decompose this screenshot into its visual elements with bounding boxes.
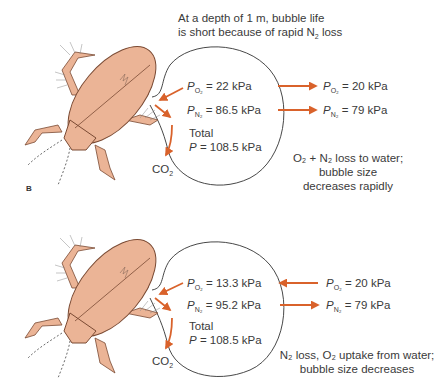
panel-note: O₂ + N₂ loss to water; bubble size decre…: [283, 151, 413, 193]
water-pn2: PN₂ = 79 kPa: [326, 298, 390, 317]
co2-label: CO2: [152, 162, 173, 181]
panel-note: N₂ loss, O₂ uptake from water; bubble si…: [276, 348, 438, 376]
o2-into-beetle-arrow: [160, 283, 183, 294]
water-po2: PO₂ = 20 kPa: [323, 79, 388, 98]
co2-out-arrow-2: [166, 125, 172, 155]
bubble-total: Total P = 108.5 kPa: [189, 319, 262, 347]
bubble-po2: PO₂ = 22 kPa: [187, 79, 252, 98]
bubble-total: Total P = 108.5 kPa: [189, 126, 262, 154]
panel-shallow-dive: At a depth of 1 m, bubble life is short …: [0, 0, 438, 190]
beetle-antenna: [28, 333, 62, 358]
diving-beetle: [52, 31, 173, 158]
bubble-pn2: PN₂ = 86.5 kPa: [187, 103, 261, 122]
beetle-antenna: [28, 140, 62, 165]
bubble-po2: PO₂ = 13.3 kPa: [187, 276, 261, 295]
co2-out-arrow-1: [155, 298, 170, 310]
water-po2: PO₂ = 20 kPa: [326, 276, 391, 295]
heading-line-2: is short because of rapid N2 loss: [178, 25, 342, 44]
co2-out-arrow-1: [155, 105, 170, 117]
diving-beetle: [52, 224, 173, 351]
panel-gill-exchange: PO₂ = 13.3 kPa PN₂ = 95.2 kPa Total P = …: [0, 190, 438, 380]
o2-into-beetle-arrow: [160, 88, 183, 100]
co2-out-arrow-2: [166, 318, 172, 348]
bubble-pn2: PN₂ = 95.2 kPa: [187, 298, 261, 317]
co2-label: CO2: [152, 354, 173, 373]
heading-line-1: At a depth of 1 m, bubble life: [178, 11, 342, 25]
water-pn2: PN₂ = 79 kPa: [323, 103, 387, 122]
heading: At a depth of 1 m, bubble life is short …: [178, 11, 342, 44]
